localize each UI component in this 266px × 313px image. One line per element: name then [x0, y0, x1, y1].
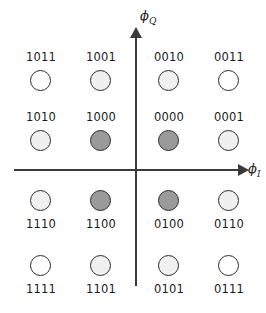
point-circle-0100 — [158, 190, 179, 211]
point-label-1101: 1101 — [71, 284, 131, 296]
point-circle-0001 — [218, 130, 239, 151]
point-circle-1100 — [90, 190, 111, 211]
point-circle-1101 — [90, 255, 111, 276]
vertical-axis-arrow-icon — [130, 27, 142, 38]
point-label-1011: 1011 — [11, 52, 71, 64]
vertical-axis-subscript: Q — [149, 16, 156, 26]
constellation-diagram: ϕQ ϕI 1011100100100011101010000000000111… — [0, 0, 266, 313]
point-label-0101: 0101 — [139, 284, 199, 296]
point-label-0010: 0010 — [139, 52, 199, 64]
point-label-0110: 0110 — [199, 219, 259, 231]
point-circle-0000 — [158, 130, 179, 151]
point-circle-0011 — [218, 70, 239, 91]
point-label-0000: 0000 — [139, 112, 199, 124]
point-circle-1000 — [90, 130, 111, 151]
vertical-axis-line — [135, 36, 137, 286]
point-label-1000: 1000 — [71, 112, 131, 124]
horizontal-axis-label: ϕI — [248, 162, 260, 179]
point-label-0011: 0011 — [199, 52, 259, 64]
point-circle-1111 — [30, 255, 51, 276]
point-circle-0010 — [158, 70, 179, 91]
point-circle-0101 — [158, 255, 179, 276]
point-label-0100: 0100 — [139, 219, 199, 231]
point-circle-1011 — [30, 70, 51, 91]
point-label-0111: 0111 — [199, 284, 259, 296]
point-label-1100: 1100 — [71, 219, 131, 231]
vertical-axis-symbol: ϕ — [140, 8, 149, 23]
point-circle-1110 — [30, 190, 51, 211]
point-circle-0111 — [218, 255, 239, 276]
point-label-1010: 1010 — [11, 112, 71, 124]
point-circle-0110 — [218, 190, 239, 211]
point-circle-1010 — [30, 130, 51, 151]
point-circle-1001 — [90, 70, 111, 91]
point-label-1001: 1001 — [71, 52, 131, 64]
point-label-1111: 1111 — [11, 284, 71, 296]
vertical-axis-label: ϕQ — [140, 9, 156, 26]
horizontal-axis-line — [14, 169, 240, 171]
horizontal-axis-subscript: I — [257, 169, 261, 179]
horizontal-axis-symbol: ϕ — [248, 161, 257, 176]
point-label-1110: 1110 — [11, 219, 71, 231]
point-label-0001: 0001 — [199, 112, 259, 124]
